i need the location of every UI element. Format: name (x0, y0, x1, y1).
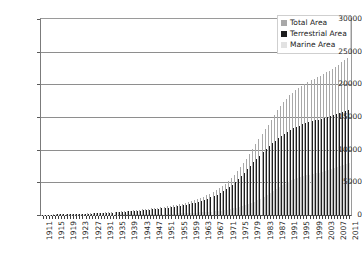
x-axis-tick-mark (70, 216, 71, 219)
x-axis-tick-mark (279, 216, 280, 219)
x-axis-tick-mark (128, 216, 129, 219)
x-axis-tick-mark (110, 216, 111, 219)
x-axis-tick-mark (64, 216, 65, 219)
x-axis-tick-mark (165, 216, 166, 219)
y-axis-tick-label: 15000 (328, 113, 362, 121)
x-axis-tick-mark (300, 216, 301, 219)
x-axis-tick-label: 1931 (107, 221, 115, 240)
x-axis-tick-label: 1923 (82, 221, 90, 240)
x-axis-tick-mark (214, 216, 215, 219)
legend-label: Terrestrial Area (290, 30, 347, 38)
x-axis-tick-mark (285, 216, 286, 219)
x-axis-tick-mark (282, 216, 283, 219)
x-axis-tick-mark (49, 216, 50, 219)
y-axis-tick-mark (37, 52, 40, 53)
x-axis-tick-mark (171, 216, 172, 219)
x-axis-tick-mark (264, 216, 265, 219)
x-axis-tick-mark (156, 216, 157, 219)
x-axis-tick-mark (113, 216, 114, 219)
x-axis-tick-mark (181, 216, 182, 219)
x-axis-tick-mark (257, 216, 258, 219)
x-axis-tick-mark (245, 216, 246, 219)
x-axis-tick-mark (162, 216, 163, 219)
x-axis-tick-mark (141, 216, 142, 219)
x-axis-tick-mark (187, 216, 188, 219)
x-axis-tick-mark (132, 216, 133, 219)
x-axis-tick-label: 1967 (217, 221, 225, 240)
x-axis-tick-label: 1999 (316, 221, 324, 240)
x-axis-tick-mark (260, 216, 261, 219)
x-axis-tick-label: 2011 (352, 221, 360, 240)
x-axis-tick-mark (291, 216, 292, 219)
x-axis-tick-mark (138, 216, 139, 219)
x-axis-tick-label: 1963 (205, 221, 213, 240)
x-axis-tick-mark (190, 216, 191, 219)
x-axis-tick-mark (294, 216, 295, 219)
x-axis-tick-mark (101, 216, 102, 219)
x-axis-tick-mark (125, 216, 126, 219)
x-axis-tick-label: 1975 (242, 221, 250, 240)
legend-label: Total Area (290, 19, 327, 27)
x-axis-tick-mark (153, 216, 154, 219)
x-axis-tick-mark (76, 216, 77, 219)
x-axis-tick-mark (159, 216, 160, 219)
x-axis-tick-label: 1991 (291, 221, 299, 240)
x-axis-tick-mark (267, 216, 268, 219)
x-axis-tick-mark (270, 216, 271, 219)
x-axis-tick-mark (208, 216, 209, 219)
x-axis-tick-mark (251, 216, 252, 219)
x-axis-tick-mark (43, 216, 44, 219)
x-axis-tick-mark (52, 216, 53, 219)
legend-swatch-icon (281, 20, 287, 26)
legend-swatch-icon (281, 31, 287, 37)
x-axis-tick-mark (297, 216, 298, 219)
y-axis-tick-mark (37, 182, 40, 183)
bar-marine (349, 163, 350, 215)
x-axis-tick-mark (95, 216, 96, 219)
x-axis-tick-mark (144, 216, 145, 219)
x-axis-tick-mark (150, 216, 151, 219)
x-axis-tick-mark (199, 216, 200, 219)
x-axis-tick-mark (175, 216, 176, 219)
x-axis-tick-mark (273, 216, 274, 219)
x-axis-tick-mark (58, 216, 59, 219)
x-axis-tick-mark (178, 216, 179, 219)
y-axis-tick-label: 30000 (328, 15, 362, 23)
x-axis-tick-mark (92, 216, 93, 219)
x-axis-tick-mark (122, 216, 123, 219)
x-axis-tick-label: 1951 (168, 221, 176, 240)
x-axis-tick-label: 1955 (181, 221, 189, 240)
y-axis-tick-mark (37, 150, 40, 151)
x-axis-tick-label: 1995 (303, 221, 311, 240)
x-axis-tick-mark (73, 216, 74, 219)
x-axis-tick-mark (184, 216, 185, 219)
x-axis-tick-label: 1947 (156, 221, 164, 240)
x-axis-tick-mark (193, 216, 194, 219)
x-axis-tick-label: 1943 (144, 221, 152, 240)
x-axis-tick-mark (221, 216, 222, 219)
x-axis-tick-mark (67, 216, 68, 219)
x-axis-tick-mark (239, 216, 240, 219)
x-axis-tick-mark (82, 216, 83, 219)
x-axis-tick-label: 1971 (230, 221, 238, 240)
x-axis-tick-mark (205, 216, 206, 219)
x-axis-tick-mark (319, 216, 320, 219)
x-axis-tick-mark (89, 216, 90, 219)
y-axis-tick-label: 10000 (328, 146, 362, 154)
x-axis-tick-label: 1915 (58, 221, 66, 240)
x-axis-tick-mark (306, 216, 307, 219)
x-axis-tick-mark (135, 216, 136, 219)
x-axis-tick-label: 2007 (340, 221, 348, 240)
x-axis-tick-label: 1927 (95, 221, 103, 240)
x-axis-tick-mark (288, 216, 289, 219)
x-axis-tick-label: 1919 (70, 221, 78, 240)
x-axis-tick-mark (116, 216, 117, 219)
x-axis-tick-mark (242, 216, 243, 219)
y-axis-tick-label: 20000 (328, 80, 362, 88)
x-axis-tick-mark (211, 216, 212, 219)
legend-swatch-icon (281, 42, 287, 48)
x-axis-tick-mark (230, 216, 231, 219)
x-axis-tick-label: 2003 (328, 221, 336, 240)
x-axis-tick-mark (86, 216, 87, 219)
x-axis-tick-mark (217, 216, 218, 219)
